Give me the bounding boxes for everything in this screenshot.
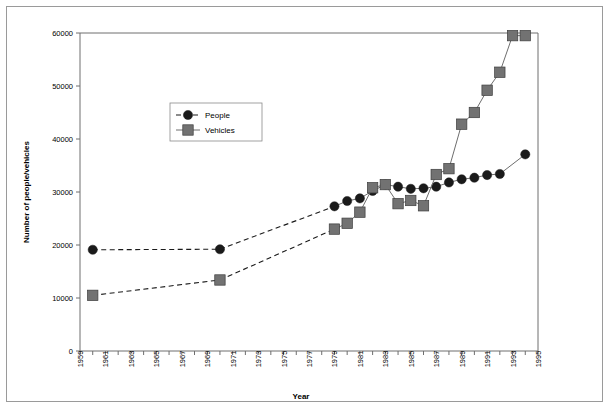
x-tick-label: 1985 <box>407 351 416 368</box>
plot-frame <box>80 33 538 351</box>
data-point-people <box>406 184 415 193</box>
data-point-people <box>343 196 352 205</box>
y-axis-title: Number of people/vehicles <box>22 141 31 243</box>
data-series-layer <box>88 30 531 300</box>
data-point-vehicles <box>215 275 225 285</box>
chart-canvas: 0100002000030000400005000060000 19591961… <box>0 0 611 415</box>
x-tick-label: 1989 <box>458 351 467 368</box>
x-tick-label: 1979 <box>330 351 339 368</box>
series-segment-vehicles <box>220 229 335 280</box>
x-tick-label: 1967 <box>178 351 187 368</box>
x-tick-label: 1969 <box>203 351 212 368</box>
y-tick-label: 50000 <box>52 82 73 91</box>
x-tick-label: 1973 <box>254 351 263 368</box>
x-tick-label: 1975 <box>280 351 289 368</box>
x-tick-label: 1993 <box>509 351 518 368</box>
chart-legend: PeopleVehicles <box>170 103 262 141</box>
data-point-vehicles <box>495 67 505 77</box>
data-point-vehicles <box>367 183 377 193</box>
data-point-people <box>419 184 428 193</box>
y-axis-ticks <box>76 33 80 351</box>
y-axis-tick-labels: 0100002000030000400005000060000 <box>52 29 73 356</box>
y-tick-label: 0 <box>69 347 73 356</box>
legend-marker-people <box>183 110 192 119</box>
x-tick-label: 1977 <box>305 351 314 368</box>
x-axis-tick-labels: 1959196119631965196719691971197319751977… <box>76 351 543 368</box>
y-tick-label: 20000 <box>52 241 73 250</box>
data-point-people <box>483 170 492 179</box>
data-point-vehicles <box>507 30 517 40</box>
data-point-vehicles <box>406 195 416 205</box>
x-tick-label: 1965 <box>152 351 161 368</box>
data-point-vehicles <box>456 119 466 129</box>
x-tick-label: 1995 <box>534 351 543 368</box>
series-segment-vehicles <box>449 124 462 169</box>
line-chart: 0100002000030000400005000060000 19591961… <box>0 0 611 415</box>
data-point-vehicles <box>88 290 98 300</box>
series-segment-people <box>220 206 335 249</box>
data-point-people <box>495 169 504 178</box>
y-tick-label: 10000 <box>52 294 73 303</box>
data-point-vehicles <box>418 201 428 211</box>
x-axis-title: Year <box>293 392 310 401</box>
x-tick-label: 1971 <box>229 351 238 368</box>
x-tick-label: 1983 <box>381 351 390 368</box>
x-tick-label: 1963 <box>127 351 136 368</box>
data-point-vehicles <box>482 85 492 95</box>
data-point-people <box>457 175 466 184</box>
data-point-people <box>88 245 97 254</box>
data-point-vehicles <box>380 179 390 189</box>
x-tick-label: 1987 <box>432 351 441 368</box>
data-point-vehicles <box>342 218 352 228</box>
data-point-vehicles <box>431 169 441 179</box>
data-point-vehicles <box>329 224 339 234</box>
x-tick-label: 1991 <box>483 351 492 368</box>
data-point-people <box>330 202 339 211</box>
data-point-vehicles <box>469 107 479 117</box>
data-point-vehicles <box>393 198 403 208</box>
series-segment-people <box>93 249 220 250</box>
data-point-people <box>355 194 364 203</box>
legend-label: People <box>205 111 230 120</box>
legend-marker-vehicles <box>183 125 193 135</box>
series-segment-vehicles <box>93 280 220 295</box>
data-point-people <box>470 173 479 182</box>
data-point-vehicles <box>444 163 454 173</box>
x-tick-label: 1981 <box>356 351 365 368</box>
legend-label: Vehicles <box>205 126 235 135</box>
data-point-vehicles <box>355 207 365 217</box>
data-point-people <box>215 245 224 254</box>
y-tick-label: 30000 <box>52 188 73 197</box>
data-point-people <box>444 178 453 187</box>
data-point-vehicles <box>520 30 530 40</box>
y-tick-label: 40000 <box>52 135 73 144</box>
data-point-people <box>393 182 402 191</box>
y-tick-label: 60000 <box>52 29 73 38</box>
x-tick-label: 1961 <box>101 351 110 368</box>
data-point-people <box>521 150 530 159</box>
x-tick-label: 1959 <box>76 351 85 368</box>
